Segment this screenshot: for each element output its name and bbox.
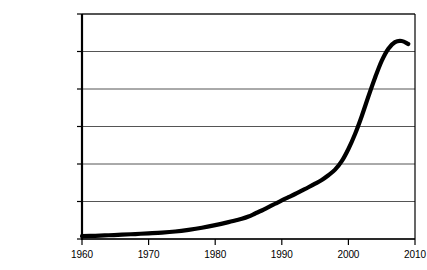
line-chart: $12,000,000$10,000,000$8,000,000$6,000,0… xyxy=(0,0,427,270)
plot-area xyxy=(0,0,427,270)
gridlines xyxy=(82,14,415,239)
data-line-series-1 xyxy=(82,41,408,236)
x-axis-ticks xyxy=(82,239,415,245)
